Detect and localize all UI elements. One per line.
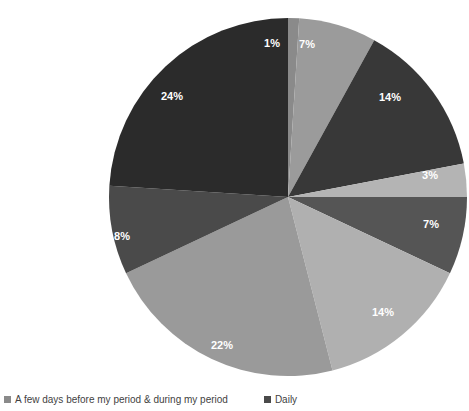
pie-slice-label: 1% bbox=[264, 37, 280, 49]
pie-chart-area: 1%7%14%3%7%14%22%8%24% bbox=[0, 0, 469, 382]
pie-slice[interactable] bbox=[109, 18, 288, 197]
pie-slice-label: 14% bbox=[379, 91, 401, 103]
legend-swatch-icon-0 bbox=[4, 396, 11, 403]
pie-slice-label: 8% bbox=[114, 230, 130, 242]
legend-label-0: A few days before my period & during my … bbox=[15, 394, 228, 406]
pie-slice-label: 24% bbox=[161, 90, 183, 102]
pie-slice-label: 7% bbox=[299, 38, 315, 50]
legend-label-1: Daily bbox=[275, 394, 297, 406]
pie-slice-label: 22% bbox=[211, 339, 233, 351]
pie-chart-svg: 1%7%14%3%7%14%22%8%24% bbox=[0, 0, 469, 382]
pie-slice-group bbox=[109, 18, 467, 376]
legend-swatch-icon-1 bbox=[264, 396, 271, 403]
legend-item-0[interactable]: A few days before my period & during my … bbox=[4, 394, 228, 406]
pie-slice-label: 7% bbox=[423, 218, 439, 230]
pie-slice-label: 3% bbox=[422, 169, 438, 181]
pie-slice-label: 14% bbox=[372, 306, 394, 318]
legend-item-1[interactable]: Daily bbox=[264, 394, 297, 406]
chart-legend: A few days before my period & during my … bbox=[0, 388, 469, 411]
